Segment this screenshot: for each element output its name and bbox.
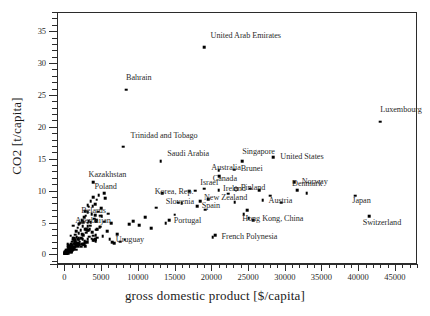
data-point [69, 234, 72, 237]
x-minor-tick [402, 264, 403, 268]
point-label-poland: Poland [94, 183, 116, 191]
y-minor-tick [52, 133, 57, 134]
y-axis-title: CO2 [t/capita] [9, 61, 25, 211]
x-minor-tick [79, 264, 80, 268]
x-minor-tick [329, 264, 330, 268]
y-minor-tick [52, 82, 57, 83]
data-point [92, 234, 95, 237]
x-tick-label-40000: 40000 [348, 273, 369, 282]
y-minor-tick [52, 235, 57, 236]
y-minor-tick [52, 57, 57, 58]
x-minor-tick [292, 264, 293, 268]
data-point [96, 228, 99, 231]
point-label-belarus: Belarus [81, 207, 106, 215]
y-minor-tick [52, 165, 57, 166]
data-point [89, 200, 92, 203]
data-point [99, 226, 102, 229]
data-point [74, 240, 77, 243]
point-label-hong-kong-china: Hong Kong, China [242, 215, 303, 223]
y-tick-label-0: 0 [20, 250, 46, 259]
data-point [104, 197, 107, 200]
point-label-brunei: Brunei [241, 165, 263, 173]
y-minor-tick [52, 69, 57, 70]
x-minor-tick [410, 264, 411, 268]
point-label-denmark: Denmark [292, 180, 322, 188]
point-label-french-polynesia: French Polynesia [222, 233, 278, 241]
data-point-singapore [241, 160, 244, 163]
data-point [128, 223, 131, 226]
data-point-trinidad-and-tobago [122, 145, 125, 148]
y-tick-label-5: 5 [20, 219, 46, 228]
x-tick-label-10000: 10000 [127, 273, 148, 282]
x-minor-tick [351, 264, 352, 268]
data-point [72, 224, 75, 227]
point-label-australia: Australia [211, 164, 241, 172]
y-minor-tick [52, 184, 57, 185]
y-minor-tick [52, 242, 57, 243]
x-minor-tick [86, 264, 87, 268]
y-minor-tick [52, 18, 57, 19]
x-minor-tick [277, 264, 278, 268]
x-tick-0 [64, 264, 65, 271]
x-tick-40000 [358, 264, 359, 271]
x-minor-tick [204, 264, 205, 268]
y-minor-tick [52, 38, 57, 39]
data-point-uruguay [111, 241, 114, 244]
x-tick-20000 [211, 264, 212, 271]
x-minor-tick [270, 264, 271, 268]
y-minor-tick [52, 171, 57, 172]
y-tick-35 [49, 31, 57, 32]
x-minor-tick [160, 264, 161, 268]
point-label-spain: Spain [202, 202, 220, 210]
point-label-slovenia: Slovenia [166, 198, 194, 206]
x-tick-35000 [321, 264, 322, 271]
x-tick-label-20000: 20000 [201, 273, 222, 282]
data-point [86, 238, 89, 241]
data-point-austria [261, 199, 264, 202]
y-minor-tick [52, 76, 57, 77]
point-label-uruguay: Uruguay [116, 236, 144, 244]
data-point [155, 207, 158, 210]
y-minor-tick [52, 210, 57, 211]
data-point [77, 232, 80, 235]
x-minor-tick [314, 264, 315, 268]
y-tick-0 [49, 254, 57, 255]
data-point [98, 194, 101, 197]
x-tick-label-45000: 45000 [384, 273, 405, 282]
data-point [164, 222, 167, 225]
y-minor-tick [52, 229, 57, 230]
y-tick-25 [49, 95, 57, 96]
x-minor-tick [189, 264, 190, 268]
x-minor-tick [182, 264, 183, 268]
x-tick-label-5000: 5000 [93, 273, 110, 282]
data-point [69, 246, 72, 249]
data-point [92, 196, 95, 199]
data-point [84, 241, 87, 244]
point-label-singapore: Singapore [242, 148, 275, 156]
data-point [106, 230, 109, 233]
data-point [144, 216, 147, 219]
y-minor-tick [52, 146, 57, 147]
y-minor-tick [52, 178, 57, 179]
data-point [88, 228, 91, 231]
data-point [107, 212, 110, 215]
y-tick-20 [49, 127, 57, 128]
x-minor-tick [233, 264, 234, 268]
point-label-united-arab-emirates: United Arab Emirates [211, 32, 281, 40]
x-tick-label-25000: 25000 [237, 273, 258, 282]
x-minor-tick [130, 264, 131, 268]
x-minor-tick [219, 264, 220, 268]
x-minor-tick [373, 264, 374, 268]
data-point-luxembourg [379, 120, 382, 123]
data-point [101, 235, 104, 238]
point-label-bahrain: Bahrain [126, 74, 152, 82]
data-point [80, 246, 83, 249]
scatter-chart-figure: 05101520253035 0500010000150002000025000… [0, 0, 430, 316]
data-point-saudi-arabia [159, 160, 162, 163]
data-point [78, 243, 81, 246]
x-tick-15000 [175, 264, 176, 271]
x-minor-tick [108, 264, 109, 268]
x-minor-tick [145, 264, 146, 268]
point-label-united-states: United States [280, 153, 323, 161]
y-minor-tick [52, 152, 57, 153]
